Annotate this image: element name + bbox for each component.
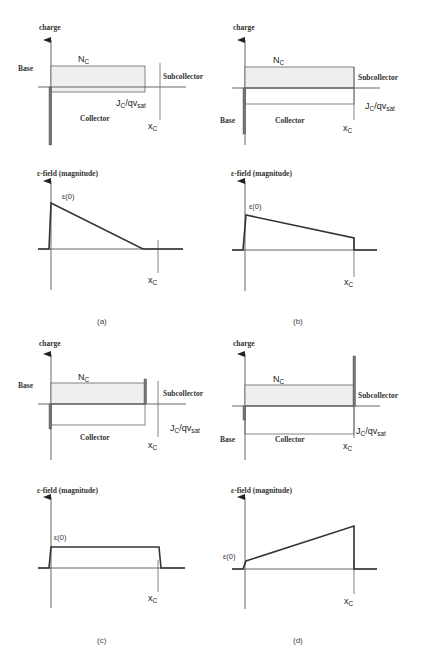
collector-label: Collector (275, 116, 305, 125)
field-axis-label: ε-field (magnitude) (37, 169, 98, 178)
collector-width-label: xC (344, 596, 354, 607)
peak-field-label: ε(0) (249, 202, 262, 211)
base-charge-spike (49, 404, 52, 429)
subcollector-label: Subcollector (358, 391, 399, 400)
subcollector-charge-spike (144, 379, 147, 404)
charge-axis-label: charge (39, 339, 61, 348)
base-label: Base (220, 116, 236, 125)
current-density-label: JC/qvsat (116, 98, 146, 109)
panel-d-field-plot: ε-field (magnitude) ε(0) xC (223, 486, 377, 609)
subcollector-label: Subcollector (163, 72, 204, 81)
current-density-label: JC/qvsat (170, 423, 200, 434)
doping-label: NC (273, 374, 285, 385)
panel-b: charge NC Subcollector JC/qvsat Base Col… (220, 23, 399, 326)
collector-width-label: xC (344, 277, 354, 288)
panel-d-charge-plot: charge NC Subcollector JC/qvsat Base Col… (220, 339, 399, 460)
panel-caption: (a) (97, 317, 107, 326)
panel-caption: (c) (97, 636, 107, 645)
panel-c: charge Base NC Subcollector JC/qvsat Col… (18, 339, 204, 645)
field-profile (38, 203, 183, 249)
panel-a: charge Base NC Subcollector JC/qvsat Col… (18, 23, 204, 326)
collector-label: Collector (275, 435, 305, 444)
peak-field-label: ε(0) (62, 192, 75, 201)
collector-label: Collector (80, 433, 110, 442)
panel-caption: (d) (293, 636, 303, 645)
peak-field-label: ε(0) (54, 533, 67, 542)
ionized-donor-region (245, 385, 354, 406)
field-axis-label: ε-field (magnitude) (231, 169, 292, 178)
doping-label: NC (273, 55, 285, 66)
base-label: Base (18, 64, 34, 73)
panel-c-charge-plot: charge Base NC Subcollector JC/qvsat Col… (18, 339, 204, 460)
base-label: Base (220, 435, 236, 444)
charge-axis-label: charge (233, 23, 255, 32)
collector-width-label: xC (148, 275, 158, 286)
field-profile (38, 547, 185, 568)
collector-width-label: xC (343, 123, 353, 134)
field-axis-label: ε-field (magnitude) (231, 486, 292, 495)
field-profile (232, 215, 377, 250)
figure-canvas: charge Base NC Subcollector JC/qvsat Col… (0, 0, 426, 661)
panel-b-charge-plot: charge NC Subcollector JC/qvsat Base Col… (220, 23, 399, 145)
field-profile (232, 526, 377, 569)
peak-field-label: ε(0) (223, 552, 236, 561)
collector-width-label: xC (148, 440, 158, 451)
panel-a-field-plot: ε-field (magnitude) ε(0) xC (37, 169, 183, 290)
base-label: Base (18, 381, 34, 390)
subcollector-charge-spike (353, 356, 356, 406)
panel-b-field-plot: ε-field (magnitude) ε(0) xC (231, 169, 377, 291)
charge-axis-label: charge (39, 23, 61, 32)
subcollector-label: Subcollector (163, 389, 204, 398)
field-axis-label: ε-field (magnitude) (37, 486, 98, 495)
doping-label: NC (78, 372, 90, 383)
current-density-label: JC/qvsat (365, 101, 395, 112)
collector-width-label: xC (343, 441, 353, 452)
collector-label: Collector (80, 114, 110, 123)
collector-width-label: xC (148, 121, 158, 132)
base-charge-spike (243, 88, 246, 134)
panel-caption: (b) (293, 317, 303, 326)
current-density-label: JC/qvsat (356, 426, 386, 437)
collector-width-label: xC (148, 593, 158, 604)
subcollector-label: Subcollector (358, 73, 399, 82)
mobile-charge-region (245, 88, 354, 104)
panel-d: charge NC Subcollector JC/qvsat Base Col… (220, 339, 399, 645)
ionized-donor-region (51, 383, 145, 404)
charge-axis-label: charge (233, 339, 255, 348)
doping-label: NC (78, 54, 90, 65)
base-charge-spike (243, 406, 246, 420)
panel-c-field-plot: ε-field (magnitude) ε(0) xC (37, 486, 185, 608)
ionized-donor-region (245, 67, 354, 88)
mobile-charge-region (51, 404, 145, 425)
base-charge-spike (49, 87, 52, 145)
panel-a-charge-plot: charge Base NC Subcollector JC/qvsat Col… (18, 23, 204, 145)
mobile-charge-region (245, 406, 354, 434)
ionized-donor-region (51, 66, 145, 92)
